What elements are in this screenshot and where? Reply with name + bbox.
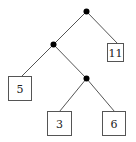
leaf-label: 5: [17, 83, 24, 96]
leaf-5-box: 5: [9, 77, 32, 101]
leaf-6-box: 6: [103, 112, 126, 136]
edge-n2-leaf-6: [87, 79, 115, 112]
edge-n2-leaf-3: [60, 79, 87, 112]
binary-tree-diagram: 11536: [0, 0, 136, 142]
root-node-dot: [84, 9, 90, 15]
leaf-label: 11: [109, 47, 123, 60]
edge-root-n1: [54, 12, 87, 45]
leaf-3-box: 3: [48, 112, 72, 136]
edge-root-leaf-11: [87, 12, 118, 44]
tree-edges: [22, 12, 118, 112]
edge-n1-n2: [54, 45, 87, 79]
leaf-label: 6: [111, 118, 118, 131]
leaf-11-box: 11: [108, 44, 124, 62]
edge-n1-leaf-5: [22, 45, 54, 77]
n1-node-dot: [51, 42, 57, 48]
n2-node-dot: [84, 76, 90, 82]
tree-internal-nodes: [51, 9, 90, 82]
tree-leaves: 11536: [9, 44, 126, 136]
leaf-label: 3: [56, 118, 63, 131]
